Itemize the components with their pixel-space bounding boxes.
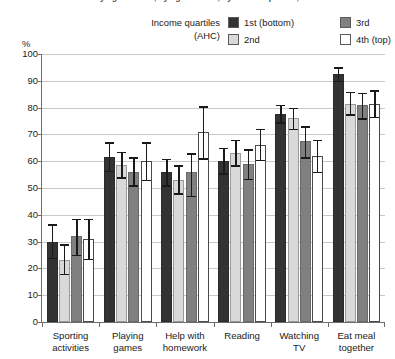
legend-column-left: 1st (bottom) 2nd — [228, 16, 294, 50]
error-bar — [71, 219, 82, 257]
error-bar-cap-bottom — [231, 165, 240, 166]
error-bar-line — [223, 148, 224, 175]
error-bar-cap-top — [244, 149, 253, 150]
bar — [288, 118, 299, 322]
legend-column-right: 3rd 4th (top) — [340, 16, 391, 50]
legend-swatch-4th-icon — [340, 34, 351, 45]
x-axis-category-line: Playing — [99, 330, 156, 342]
error-bar — [141, 142, 152, 181]
y-tick-label-30: 30 — [12, 237, 38, 246]
error-bar-cap-top — [199, 106, 208, 107]
bar — [104, 157, 115, 322]
x-axis-category-line: games — [99, 342, 156, 354]
x-axis-category-line: Sporting — [42, 330, 99, 342]
x-axis-category-line: homework — [156, 342, 213, 354]
bar — [161, 172, 172, 322]
x-axis-category-label: Playinggames — [99, 330, 156, 355]
error-bar — [333, 67, 344, 82]
bar-group — [214, 54, 271, 322]
x-tick — [99, 322, 100, 327]
error-bar-cap-top — [60, 244, 69, 245]
error-bar — [357, 93, 368, 120]
error-bar-line — [362, 93, 363, 120]
error-bar — [218, 148, 229, 175]
error-bar-cap-bottom — [187, 196, 196, 197]
bar — [300, 141, 311, 322]
bar-group — [99, 54, 156, 322]
error-bar — [312, 140, 323, 174]
error-bar — [173, 165, 184, 194]
bar-group — [328, 54, 385, 322]
bar — [357, 105, 368, 322]
error-bar-cap-top — [219, 148, 228, 149]
error-bar-cap-bottom — [117, 177, 126, 178]
error-bar-cap-top — [334, 67, 343, 68]
error-bar-line — [235, 140, 236, 167]
x-axis-category-line: activities — [42, 342, 99, 354]
y-tick-label-10: 10 — [12, 290, 38, 299]
legend-label-2nd: 2nd — [244, 34, 260, 45]
error-bar-cap-bottom — [370, 117, 379, 118]
x-axis-category-line: TV — [271, 342, 328, 354]
error-bar-line — [374, 90, 375, 118]
x-axis-category-label: Reading — [214, 330, 271, 342]
x-axis-ticks — [42, 322, 385, 327]
error-bar-cap-bottom — [174, 193, 183, 194]
bar-group — [156, 54, 213, 322]
chart-legend: Income quartiles (AHC) 1st (bottom) 2nd … — [112, 16, 395, 52]
error-bar-cap-bottom — [256, 160, 265, 161]
bar — [198, 132, 209, 322]
error-bar — [116, 152, 127, 179]
error-bar-cap-top — [289, 108, 298, 109]
error-bar-line — [109, 142, 110, 171]
legend-item-1st: 1st (bottom) — [228, 16, 294, 29]
error-bar-cap-bottom — [313, 172, 322, 173]
error-bar-cap-top — [174, 165, 183, 166]
bar — [243, 164, 254, 322]
error-bar-cap-bottom — [48, 258, 57, 259]
x-axis-category-line: Reading — [214, 330, 271, 342]
y-tick-label-40: 40 — [12, 210, 38, 219]
error-bar — [161, 159, 172, 187]
x-axis-category-line: Watching — [271, 330, 328, 342]
bar — [312, 156, 323, 322]
error-bar-cap-top — [48, 224, 57, 225]
error-bar — [47, 224, 58, 259]
bar — [345, 104, 356, 322]
error-bar-line — [146, 142, 147, 181]
error-bar — [230, 140, 241, 167]
legend-label-3rd: 3rd — [356, 17, 370, 28]
chart-title-text: Activities with mother by age of child, … — [6, 0, 395, 2]
error-bar — [59, 244, 70, 275]
error-bar-line — [317, 140, 318, 174]
error-bar-cap-top — [313, 140, 322, 141]
error-bar-line — [248, 149, 249, 180]
error-bar-line — [76, 219, 77, 257]
bar — [173, 180, 184, 322]
error-bar — [255, 129, 266, 161]
bar — [333, 74, 344, 322]
bar — [218, 161, 229, 322]
x-tick — [214, 322, 215, 327]
error-bar — [300, 126, 311, 158]
bar — [369, 104, 380, 322]
legend-swatch-3rd-icon — [340, 17, 351, 28]
x-axis-category-line: together — [328, 342, 385, 354]
error-bar — [104, 142, 115, 171]
error-bar-cap-top — [370, 90, 379, 91]
error-bar-cap-top — [231, 140, 240, 141]
chart-container: Activities with mother by age of child, … — [0, 0, 395, 359]
error-bar-cap-bottom — [301, 157, 310, 158]
error-bar — [288, 108, 299, 131]
error-bar-line — [305, 126, 306, 158]
error-bar — [186, 153, 197, 197]
error-bar-line — [166, 159, 167, 187]
error-bar-line — [88, 219, 89, 261]
y-tick-label-60: 60 — [12, 156, 38, 165]
x-axis-category-label: Help withhomework — [156, 330, 213, 355]
error-bar-cap-bottom — [60, 274, 69, 275]
error-bar-cap-top — [142, 142, 151, 143]
error-bar — [275, 105, 286, 124]
x-tick — [384, 322, 385, 327]
error-bar-cap-top — [117, 152, 126, 153]
